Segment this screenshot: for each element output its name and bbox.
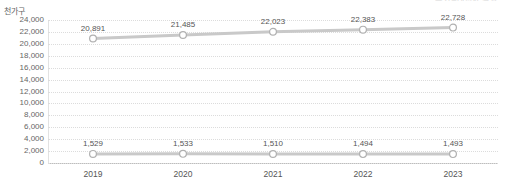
- x-tick-label: 2019: [84, 170, 103, 179]
- y-tick-label: 6,000: [2, 123, 44, 131]
- data-point-label: 1,510: [263, 140, 283, 148]
- data-point-label: 21,485: [171, 21, 195, 29]
- data-point-marker[interactable]: [450, 151, 457, 158]
- y-tick-label: 4,000: [2, 135, 44, 143]
- data-point-label: 1,494: [353, 140, 373, 148]
- data-point-marker[interactable]: [360, 26, 367, 33]
- data-point-marker[interactable]: [360, 151, 367, 158]
- x-tick-label: 2021: [264, 170, 283, 179]
- y-tick-label: 12,000: [2, 88, 44, 96]
- y-tick-label: 22,000: [2, 28, 44, 36]
- y-tick-label: 24,000: [2, 16, 44, 24]
- cropped-header-text: 주거실태조사 결과: [435, 0, 497, 1]
- y-tick-label: 18,000: [2, 52, 44, 60]
- data-point-marker[interactable]: [90, 150, 97, 157]
- x-tick-label: 2023: [444, 170, 463, 179]
- gridline: [48, 163, 498, 164]
- data-point-marker[interactable]: [270, 151, 277, 158]
- data-point-label: 22,023: [261, 18, 285, 26]
- y-tick-label: 0: [2, 159, 44, 167]
- data-point-marker[interactable]: [180, 150, 187, 157]
- line-chart: 주거실태조사 결과 천가구 24,00022,00020,00018,00016…: [0, 0, 505, 185]
- data-point-label: 20,891: [81, 25, 105, 33]
- x-tick-label: 2020: [174, 170, 193, 179]
- data-point-label: 22,728: [441, 14, 465, 22]
- data-point-marker[interactable]: [90, 35, 97, 42]
- y-axis-tick-labels: 24,00022,00020,00018,00016,00014,00012,0…: [0, 0, 44, 185]
- y-tick-label: 16,000: [2, 64, 44, 72]
- data-point-marker[interactable]: [270, 28, 277, 35]
- data-point-marker[interactable]: [180, 32, 187, 39]
- plot-area: 20,89121,48522,02322,38322,7281,5291,533…: [48, 20, 498, 163]
- data-point-label: 1,529: [83, 140, 103, 148]
- y-tick-label: 14,000: [2, 76, 44, 84]
- data-point-label: 22,383: [351, 16, 375, 24]
- x-tick-label: 2022: [354, 170, 373, 179]
- data-point-label: 1,533: [173, 140, 193, 148]
- data-point-label: 1,493: [443, 140, 463, 148]
- y-tick-label: 10,000: [2, 99, 44, 107]
- y-tick-label: 2,000: [2, 147, 44, 155]
- y-tick-label: 20,000: [2, 40, 44, 48]
- data-point-marker[interactable]: [450, 24, 457, 31]
- y-tick-label: 8,000: [2, 111, 44, 119]
